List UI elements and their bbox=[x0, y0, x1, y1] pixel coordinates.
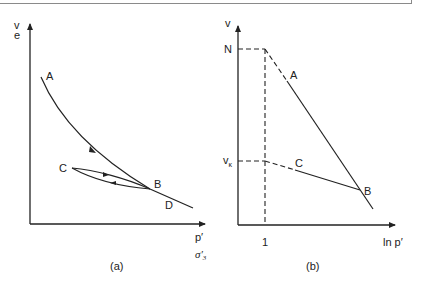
panel-b-swelling-extrapolation bbox=[265, 161, 295, 170]
panel-b-y-label-v: v bbox=[225, 17, 231, 29]
panel-a-x-label-p: p′ bbox=[195, 231, 203, 243]
panel-b-x-tick-1: 1 bbox=[262, 236, 268, 248]
panel-a: v e A C B D p′ σ′3 (a) bbox=[14, 19, 207, 272]
panel-b-swelling-line bbox=[295, 170, 360, 190]
panel-b-point-c: C bbox=[295, 157, 303, 169]
panel-a-caption: (a) bbox=[110, 260, 123, 272]
panel-a-point-c: C bbox=[59, 162, 67, 174]
panel-b-tick-n: N bbox=[224, 43, 232, 55]
panel-a-normal-compression-curve bbox=[41, 77, 193, 208]
panel-a-y-label-e: e bbox=[14, 29, 20, 41]
panel-a-point-d: D bbox=[165, 199, 173, 211]
panel-b-normal-compression-line bbox=[287, 81, 373, 209]
diagram-canvas: v e A C B D p′ σ′3 (a) v N vκ bbox=[0, 0, 424, 282]
panel-b-caption: (b) bbox=[306, 260, 319, 272]
panel-a-x-label-sigma: σ′3 bbox=[195, 248, 207, 262]
panel-a-reload-line bbox=[72, 168, 150, 189]
panel-a-unload-line bbox=[72, 168, 150, 189]
panel-b-ncl-extrapolation bbox=[265, 49, 287, 81]
panel-b-point-a: A bbox=[290, 69, 298, 81]
panel-a-point-a: A bbox=[46, 70, 54, 82]
panel-a-unload-arrow-icon bbox=[110, 181, 116, 185]
panel-b-tick-v-kappa: vκ bbox=[223, 154, 233, 168]
panel-b-x-label: ln p′ bbox=[383, 236, 403, 248]
panel-a-point-b: B bbox=[154, 178, 161, 190]
panel-b: v N vκ A C B 1 ln p′ (b) bbox=[223, 17, 403, 272]
panel-b-point-b: B bbox=[364, 185, 371, 197]
